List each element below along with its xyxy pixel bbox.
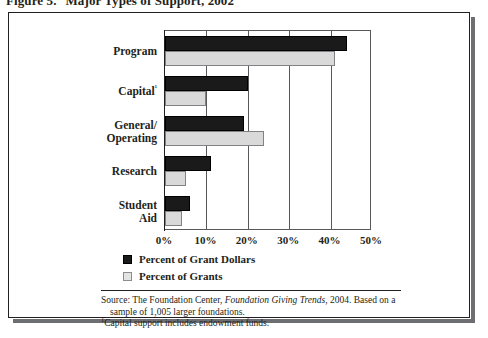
legend-swatch-grants (123, 272, 132, 281)
legend-swatch-grant-dollars (123, 255, 132, 264)
figure-box: ProgramCapital¹General/ OperatingResearc… (8, 12, 470, 318)
category-footnote-marker: ¹ (155, 83, 157, 92)
x-axis-tick-label: 10% (194, 234, 216, 246)
bar-grant-dollars (165, 36, 347, 51)
category-label: Research (7, 165, 157, 178)
source-divider (101, 290, 401, 291)
x-axis-tick-label: 40% (319, 234, 341, 246)
chart-legend: Percent of Grant Dollars Percent of Gran… (123, 252, 255, 286)
x-axis-tick-label: 20% (236, 234, 258, 246)
x-axis-tick-label: 50% (360, 234, 382, 246)
source-line-2: sample of 1,005 larger foundations. (101, 307, 411, 319)
x-axis-tick-labels: 0%10%20%30%40%50% (164, 234, 371, 250)
bar-grants (165, 91, 206, 106)
chart-category-row: Research (165, 151, 370, 191)
source-prefix: Source: The Foundation Center, (101, 295, 225, 305)
bar-grants (165, 131, 264, 146)
chart-category-row: Program (165, 31, 370, 71)
chart-category-row: Student Aid (165, 191, 370, 231)
category-label: General/ Operating (7, 119, 157, 144)
figure-caption: Figure 5.Major Types of Support, 2002 (6, 0, 234, 9)
category-label: Student Aid (7, 199, 157, 224)
footnote-text: Capital support includes endowment funds… (104, 318, 269, 328)
bar-grant-dollars (165, 116, 244, 131)
bar-grant-dollars (165, 76, 248, 91)
legend-label-grants: Percent of Grants (139, 270, 223, 282)
legend-item-grant-dollars: Percent of Grant Dollars (123, 252, 255, 266)
plot-area: ProgramCapital¹General/ OperatingResearc… (164, 30, 371, 230)
chart-container: ProgramCapital¹General/ OperatingResearc… (9, 13, 471, 319)
legend-item-grants: Percent of Grants (123, 269, 255, 283)
x-axis-tick-label: 30% (277, 234, 299, 246)
x-axis-tick-label: 0% (156, 234, 173, 246)
chart-category-row: General/ Operating (165, 111, 370, 151)
chart-category-row: Capital¹ (165, 71, 370, 111)
source-publication: Foundation Giving Trends (225, 295, 325, 305)
figure-number: Figure 5. (6, 0, 57, 8)
bar-grant-dollars (165, 156, 211, 171)
category-label: Program (7, 45, 157, 58)
bar-grant-dollars (165, 196, 190, 211)
bar-grants (165, 211, 182, 226)
bar-grants (165, 51, 335, 66)
category-label: Capital¹ (7, 85, 157, 98)
figure-title: Major Types of Support, 2002 (66, 0, 235, 8)
source-suffix: , 2004. Based on a (325, 295, 395, 305)
y-axis-line (164, 30, 165, 231)
bar-grants (165, 171, 186, 186)
legend-label-grant-dollars: Percent of Grant Dollars (139, 253, 255, 265)
source-line-1: Source: The Foundation Center, Foundatio… (101, 295, 395, 305)
source-footnote: 1Capital support includes endowment fund… (101, 318, 269, 328)
source-note: Source: The Foundation Center, Foundatio… (101, 295, 411, 330)
figure-box-shadow-right (471, 17, 475, 323)
